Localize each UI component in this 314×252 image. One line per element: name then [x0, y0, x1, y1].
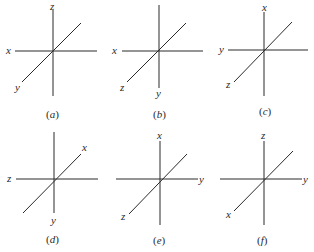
panel-c: x y z (c): [205, 0, 309, 126]
axis-label-left: z: [7, 173, 11, 184]
panel-d: x z y (d): [0, 125, 104, 251]
caption-e: (e): [153, 234, 165, 246]
axis-label-right: y: [199, 174, 204, 185]
axis-label-up: z: [261, 130, 265, 141]
caption-b: (b): [153, 108, 166, 120]
axis-label-lower-left: z: [120, 82, 124, 93]
axis-label-lower-left: x: [226, 209, 231, 220]
axis-label-lower-left: z: [121, 211, 125, 222]
axes-f: [205, 125, 314, 252]
panel-b: x z y (b): [105, 0, 209, 126]
panel-f: z y x (f): [205, 125, 309, 251]
diagonal-axis-line: [234, 22, 292, 82]
axis-label-down: y: [51, 215, 56, 226]
axis-label-right: y: [303, 174, 308, 185]
axis-label-up: x: [157, 130, 162, 141]
axes-e: [105, 125, 209, 252]
panel-a: z x y (a): [0, 0, 104, 126]
diagonal-axis-line: [23, 154, 81, 213]
caption-f: (f): [257, 234, 267, 246]
diagonal-axis-line: [127, 23, 186, 82]
axis-label-down: y: [156, 88, 161, 99]
diagonal-axis-line: [22, 23, 81, 82]
caption-a: (a): [46, 108, 59, 120]
axis-label-upper-right: x: [82, 142, 87, 153]
axis-label-lower-left: z: [226, 79, 230, 90]
axis-label-lower-left: y: [15, 82, 20, 93]
caption-c: (c): [259, 105, 271, 117]
axis-label-left: y: [219, 44, 224, 55]
panel-e: x y z (e): [105, 125, 209, 251]
axis-label-left: x: [112, 45, 117, 56]
caption-d: (d): [46, 233, 59, 245]
axis-label-up: x: [262, 2, 267, 13]
diagonal-axis-line: [129, 154, 187, 214]
axis-label-up: z: [50, 1, 54, 12]
axis-label-left: x: [6, 45, 11, 56]
